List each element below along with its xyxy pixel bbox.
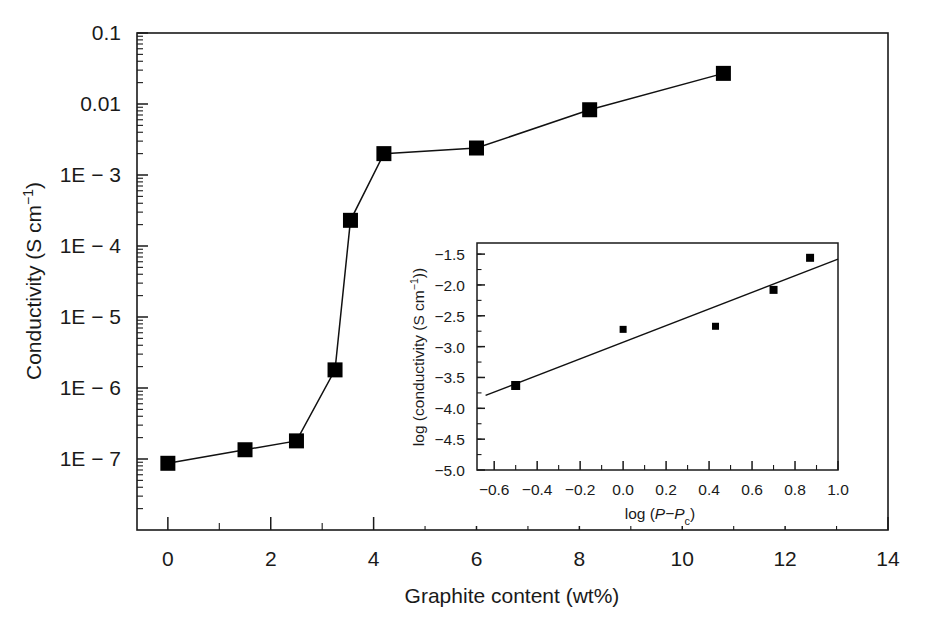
- y-tick-label: 1E − 6: [60, 376, 121, 399]
- inset-x-tick-label: 0.0: [612, 481, 634, 498]
- data-point-marker: [289, 433, 304, 448]
- inset-y-tick-label: −1.5: [434, 246, 465, 263]
- inset-x-tick-label: 0.4: [698, 481, 720, 498]
- data-point-marker: [343, 213, 358, 228]
- data-point-marker: [238, 442, 253, 457]
- inset-y-tick-label: −3.5: [434, 369, 465, 386]
- x-tick-label: 14: [876, 547, 900, 570]
- x-tick-label: 8: [574, 547, 586, 570]
- inset-x-tick-label: 0.8: [784, 481, 806, 498]
- conductivity-vs-graphite-chart: 0.10.011E − 31E − 41E − 51E − 61E − 7 02…: [0, 0, 927, 627]
- x-tick-label: 4: [368, 547, 380, 570]
- y-axis-title: Conductivity (S cm−1): [20, 182, 45, 380]
- inset-x-tick-label: −0.2: [565, 481, 596, 498]
- data-point-marker: [582, 102, 597, 117]
- y-tick-label: 1E − 7: [60, 447, 121, 470]
- y-tick-label: 1E − 5: [60, 305, 121, 328]
- y-tick-label: 0.01: [80, 92, 121, 115]
- inset-x-tick-label: 0.2: [655, 481, 677, 498]
- data-point-marker: [328, 362, 343, 377]
- inset-data-point-marker: [712, 323, 719, 330]
- figure-canvas: 0.10.011E − 31E − 41E − 51E − 61E − 7 02…: [0, 0, 927, 627]
- x-tick-label: 2: [265, 547, 277, 570]
- y-tick-label: 0.1: [92, 21, 121, 44]
- inset-y-tick-label: −3.0: [434, 339, 465, 356]
- x-tick-label: 6: [471, 547, 483, 570]
- inset-y-tick-label: −4.5: [434, 431, 465, 448]
- inset-y-tick-label: −5.0: [434, 462, 465, 479]
- data-point-marker: [469, 141, 484, 156]
- x-tick-label: 10: [671, 547, 694, 570]
- x-tick-label: 0: [162, 547, 174, 570]
- x-tick-label: 12: [773, 547, 796, 570]
- inset-y-axis-title: log (conductivity (S cm−1)): [408, 268, 427, 446]
- x-axis-title: Graphite content (wt%): [405, 584, 620, 607]
- data-point-marker: [160, 456, 175, 471]
- inset-plot: −1.5−2.0−2.5−3.0−3.5−4.0−4.5−5.0 −0.6−0.…: [404, 236, 849, 527]
- data-point-marker: [376, 146, 391, 161]
- inset-x-tick-label: −0.4: [522, 481, 553, 498]
- inset-y-tick-label: −2.5: [434, 308, 465, 325]
- data-point-marker: [716, 66, 731, 81]
- inset-data-point-marker: [620, 326, 627, 333]
- inset-y-tick-label: −4.0: [434, 400, 465, 417]
- inset-y-tick-label: −2.0: [434, 277, 465, 294]
- inset-data-point-marker: [806, 254, 814, 262]
- inset-data-point-marker: [770, 286, 778, 294]
- y-tick-label: 1E − 3: [60, 163, 121, 186]
- inset-x-axis-tick-labels: −0.6−0.4−0.20.00.20.40.60.81.0: [479, 481, 849, 498]
- inset-x-tick-label: −0.6: [479, 481, 510, 498]
- inset-x-tick-label: 1.0: [827, 481, 849, 498]
- inset-data-point-marker: [511, 381, 520, 390]
- inset-x-tick-label: 0.6: [741, 481, 763, 498]
- y-tick-label: 1E − 4: [60, 234, 122, 257]
